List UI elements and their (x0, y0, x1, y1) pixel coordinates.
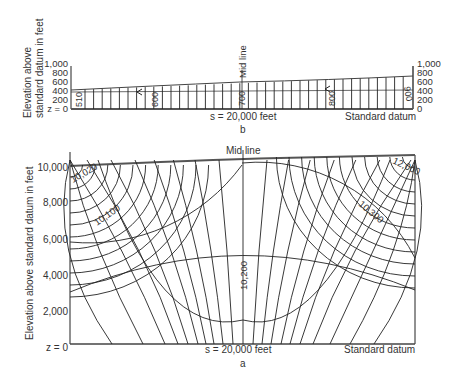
contour-label: 800 (327, 91, 337, 106)
tick: 0 (417, 103, 422, 114)
panel-label-b: b (240, 124, 246, 135)
mid-line-label-a: Mid line (226, 145, 261, 156)
tick: 6,000 (43, 234, 68, 245)
figure-b-ylabel-1: Elevation above (22, 46, 33, 118)
figure-b: Elevation above standard datum in feet 1… (22, 18, 441, 135)
figure-a-ylabel: Elevation above standard datum in feet (24, 166, 35, 340)
figure-a: Elevation above standard datum in feet 1… (24, 145, 422, 369)
datum-label-a: Standard datum (344, 344, 415, 355)
z-label: z = 0 (47, 103, 68, 114)
contour-label: 600 (150, 92, 160, 107)
contour-label: 900 (402, 86, 414, 103)
tick: 8,000 (43, 197, 68, 208)
contour-label: 12,000 (391, 155, 422, 177)
s-label-b: s = 20,000 feet (210, 111, 277, 122)
mid-line-label-b: Mid line (237, 45, 248, 78)
datum-label-b: Standard datum (345, 111, 416, 122)
contour-label: 510 (74, 92, 84, 107)
tick: 4,000 (43, 270, 68, 281)
tick: 2,000 (43, 306, 68, 317)
s-label-a: s = 20,000 feet (205, 344, 272, 355)
contour-label: 700 (237, 91, 247, 106)
groundwater-flow-diagram: Elevation above standard datum in feet 1… (0, 0, 458, 373)
panel-label-a: a (240, 358, 246, 369)
tick: 10,000 (37, 162, 68, 173)
contour-label: 10,200 (238, 261, 249, 290)
z-label: z = 0 (46, 342, 68, 353)
